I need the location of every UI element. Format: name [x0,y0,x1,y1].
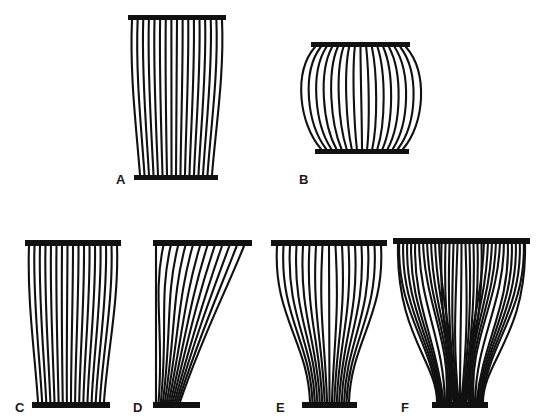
muscle-fiber [166,20,167,175]
label-b: B [299,172,308,187]
muscle-fiber-diagram: A B C D E F [0,0,544,419]
muscle-fiber [75,246,78,402]
muscle-fiber [329,246,330,402]
muscle-fiber [366,47,369,149]
panel-a [128,15,226,180]
label-f: F [401,400,409,415]
muscle-fiber [149,20,154,175]
panel-c [25,240,121,408]
muscle-fiber [277,246,310,402]
muscle-fiber [160,20,163,175]
muscle-fiber [346,47,352,149]
muscle-fiber [51,246,55,402]
muscle-fiber [361,47,363,149]
muscle-fiber [154,20,158,175]
panel-e [271,240,387,408]
label-a: A [116,172,126,187]
panel-b [301,42,421,154]
muscle-fiber [190,20,195,175]
muscle-fiber [176,246,229,402]
panel-f [393,238,530,408]
muscle-fiber [180,246,244,402]
muscle-fiber [372,47,376,149]
muscle-fiber [56,246,58,402]
panel-d [153,240,252,408]
muscle-fiber [388,47,399,149]
muscle-fiber [176,20,177,175]
muscle-fiber [67,246,68,402]
muscle-fiber [62,246,63,402]
muscle-fiber [324,47,337,149]
label-c: C [15,400,25,415]
muscle-fiber [181,20,183,175]
muscle-fiber [175,246,222,402]
muscle-fiber [185,20,188,175]
muscle-fiber [460,244,462,402]
muscle-fiber [45,246,50,402]
label-e: E [276,400,285,415]
muscle-fiber [354,47,357,149]
label-d: D [133,400,142,415]
muscle-fiber [377,47,383,149]
muscle-fiber [71,246,73,402]
